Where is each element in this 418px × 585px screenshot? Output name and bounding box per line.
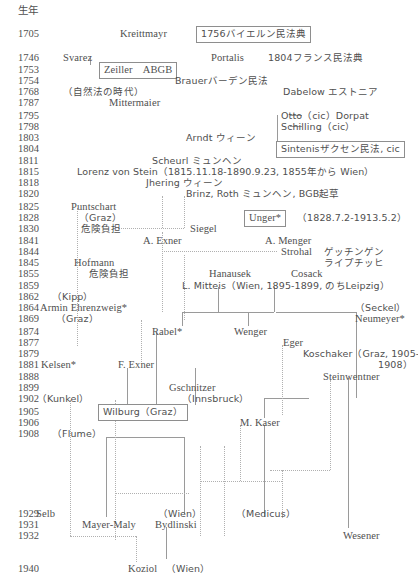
node-m-kaser: M. Kaser — [240, 417, 280, 429]
node-ehrenzweig-graz: （Graz） — [56, 313, 99, 325]
node-eger: Eger — [283, 337, 303, 349]
connector-line-horizontal — [264, 398, 309, 399]
node-schilling: Schilling（cic） — [281, 121, 355, 133]
node-leipzig-kana: ライプチッヒ — [324, 257, 385, 269]
connector-dotted-horizontal — [70, 536, 136, 537]
node-wilburg: Wilburg（Graz） — [98, 404, 188, 421]
connector-dotted-vertical — [136, 536, 137, 562]
node-f-exner: F. Exner — [118, 359, 154, 371]
connector-line-vertical — [264, 425, 265, 517]
connector-dotted-vertical — [70, 400, 71, 536]
year-label: 1787 — [18, 97, 39, 109]
year-label: 1804 — [18, 143, 39, 155]
year-label: 1869 — [18, 313, 39, 325]
connector-dotted-horizontal — [118, 228, 184, 229]
connector-dotted-vertical — [162, 196, 163, 228]
node-medicus: （Medicus） — [236, 508, 296, 520]
connector-line-vertical — [248, 312, 249, 326]
node-koschaker-end: 1908） — [378, 359, 413, 371]
node-zeiller-abgb: Zeiller ABGB — [99, 62, 177, 79]
node-hanausek: Hanausek — [209, 268, 251, 280]
connector-dotted-vertical — [77, 208, 78, 346]
node-flume: （Flume） — [52, 428, 102, 440]
node-steinwentner: Steinwentner — [323, 371, 380, 383]
year-label: 1855 — [18, 268, 39, 280]
node-hofmann-risk: 危険負担 — [89, 268, 129, 280]
node-mayer-maly: Mayer-Maly — [82, 519, 136, 531]
node-portalis: Portalis — [211, 52, 244, 64]
node-wenger: Wenger — [234, 326, 267, 338]
node-cosack: Cosack — [291, 268, 323, 280]
connector-dotted-vertical — [240, 425, 241, 481]
node-unger-dates: （1828.7.2-1913.5.2） — [297, 212, 407, 224]
connector-dotted-vertical — [224, 446, 225, 536]
node-lorenz-von-stein: Lorenz von Stein（1815.11.18-1890.9.23, 1… — [77, 166, 375, 178]
year-label: 1705 — [18, 28, 39, 40]
connector-dotted-vertical — [282, 345, 283, 415]
node-siegel: Siegel — [190, 223, 217, 235]
connector-line-vertical — [182, 312, 183, 326]
connector-line-vertical — [106, 437, 107, 517]
year-label: 1820 — [18, 188, 39, 200]
node-puntschart-risk: 危険負担 — [81, 223, 121, 235]
connector-line-vertical — [264, 398, 265, 418]
connector-dotted-horizontal — [200, 481, 282, 482]
node-arndt: Arndt ウィーン — [186, 132, 256, 144]
connector-dotted-vertical — [200, 446, 201, 536]
node-kelsen: Kelsen* — [41, 359, 76, 371]
connector-dotted-vertical — [184, 196, 185, 228]
node-koziol: Koziol — [128, 563, 157, 575]
node-strohal: Strohal — [281, 246, 312, 258]
node-mittermaier: Mittermaier — [109, 97, 160, 109]
node-neumeyer: Neumeyer* — [355, 313, 405, 325]
lineage-diagram: 生年 1705174617531754176817871795179818031… — [0, 0, 418, 585]
node-innsbruck: （Innsbruck） — [182, 393, 250, 405]
connector-line-vertical — [166, 527, 167, 559]
node-kunkel: （Kunkel） — [37, 393, 89, 405]
year-label: 1746 — [18, 52, 39, 64]
year-label: 1908 — [18, 428, 39, 440]
connector-dotted-horizontal — [162, 251, 277, 252]
node-brauer: Brauerバーデン民法 — [175, 75, 268, 87]
node-unger: Unger* — [244, 210, 286, 227]
node-bayern-code: 1756バイエルン民法典 — [196, 26, 311, 43]
node-svarez: Svarez — [63, 52, 92, 64]
connector-dotted-horizontal — [115, 493, 189, 494]
connector-line-horizontal — [276, 312, 356, 313]
year-label: 1902 — [18, 393, 39, 405]
connector-dotted-vertical — [330, 380, 331, 470]
node-dabelow: Dabelow エストニア — [283, 86, 379, 98]
node-wesener: Wesener — [343, 530, 380, 542]
year-column-header: 生年 — [18, 5, 38, 17]
year-label: 1932 — [18, 530, 39, 542]
connector-line-vertical — [156, 333, 157, 405]
node-sintenis: Sintenisザクセン民法, cic — [276, 141, 405, 158]
node-a-exner: A. Exner — [143, 235, 182, 247]
node-france-code: 1804フランス民法典 — [268, 52, 363, 64]
connector-line-horizontal — [106, 437, 184, 438]
connector-dotted-horizontal — [270, 470, 330, 471]
node-l-mitteis: L. Mitteis（Wien, 1895-1899, のちLeipzig） — [182, 280, 390, 292]
connector-dotted-vertical — [141, 320, 142, 362]
connector-line-vertical — [127, 368, 128, 405]
node-bydlinski: Bydlinski — [155, 519, 197, 531]
year-label: 1940 — [18, 563, 39, 575]
node-koziol-wien: （Wien） — [166, 563, 210, 575]
node-brinz-roth: Brinz, Roth ミュンヘン, BGB起草 — [186, 188, 340, 200]
connector-line-vertical — [348, 398, 349, 528]
node-rabel: Rabel* — [152, 326, 182, 338]
connector-line-vertical — [184, 437, 185, 514]
year-label: 1830 — [18, 223, 39, 235]
node-kreittmayr: Kreittmayr — [120, 28, 167, 40]
node-selb: Selb — [36, 508, 55, 520]
connector-line-horizontal — [182, 312, 274, 313]
year-label: 1881 — [18, 359, 39, 371]
